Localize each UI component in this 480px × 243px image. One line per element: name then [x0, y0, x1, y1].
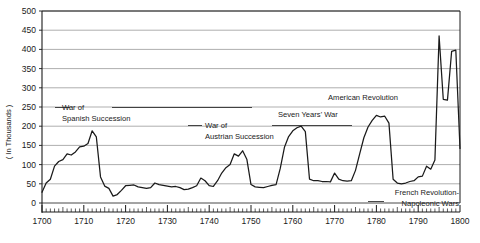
annotation-war-of-austrian-succession: War ofAustrian Succession [188, 121, 352, 141]
annotation-label: Napoleonic Wars [401, 199, 459, 208]
y-tick-label: 250 [22, 102, 36, 112]
x-tick-label: 1740 [200, 216, 219, 226]
y-tick-label: 400 [22, 44, 36, 54]
x-axis: 1700171017201730174017501760177017801790… [33, 205, 470, 226]
annotation-label: American Revolution [328, 93, 398, 102]
annotation-american-revolution: American Revolution [328, 93, 398, 102]
annotation-label: War of [205, 121, 228, 130]
x-tick-label: 1780 [367, 216, 386, 226]
y-tick-label: 150 [22, 140, 36, 150]
y-axis-title-text: ( In Thousands ) [4, 104, 13, 159]
y-tick-label: 200 [22, 121, 36, 131]
annotation-label: French Revolution- [395, 188, 460, 197]
annotation-label: Spanish Succession [62, 114, 130, 123]
y-tick-label: 500 [22, 6, 36, 16]
grid-lines [42, 11, 460, 203]
annotation-french-revolution-napoleonic-wars: French Revolution-Napoleonic Wars [368, 188, 459, 208]
x-tick-label: 1790 [409, 216, 428, 226]
annotation-war-of-spanish-succession: War ofSpanish Succession [55, 103, 252, 123]
y-tick-label: 50 [27, 179, 37, 189]
y-tick-label: 0 [31, 198, 36, 208]
annotation-seven-years-war: Seven Years' War [278, 110, 338, 119]
x-tick-label: 1700 [33, 216, 52, 226]
line-chart: 050100150200250300350400450500 170017101… [0, 0, 480, 243]
y-axis-title: ( In Thousands ) [4, 104, 13, 159]
chart-container: 050100150200250300350400450500 170017101… [0, 0, 480, 243]
x-tick-label: 1730 [158, 216, 177, 226]
x-tick-label: 1760 [283, 216, 302, 226]
annotation-label: Austrian Succession [205, 132, 274, 141]
y-axis: 050100150200250300350400450500 [22, 6, 42, 213]
x-tick-label: 1800 [451, 216, 470, 226]
annotation-label: Seven Years' War [278, 110, 338, 119]
x-tick-label: 1720 [116, 216, 135, 226]
x-tick-label: 1710 [74, 216, 93, 226]
y-tick-label: 450 [22, 25, 36, 35]
x-tick-label: 1770 [325, 216, 344, 226]
y-tick-label: 100 [22, 160, 36, 170]
x-tick-label: 1750 [242, 216, 261, 226]
y-tick-label: 350 [22, 64, 36, 74]
y-tick-label: 300 [22, 83, 36, 93]
annotations: War ofSpanish SuccessionWar ofAustrian S… [55, 93, 459, 208]
